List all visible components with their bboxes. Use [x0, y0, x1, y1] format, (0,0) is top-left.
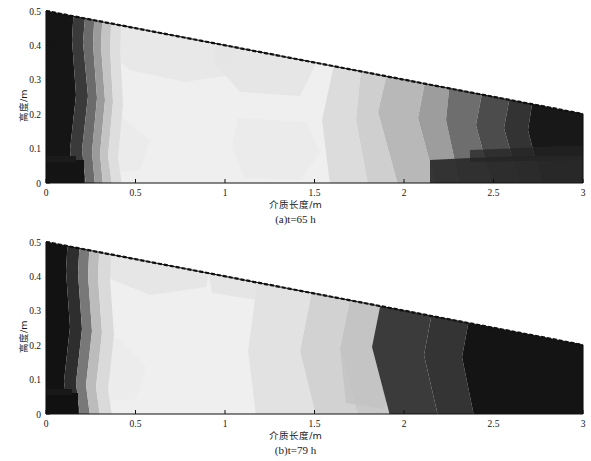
panel-a: 0 0.5 1 1.5 2 2.5 3 0 0.1: [0, 0, 591, 230]
y-axis-label-a: 高度/m: [16, 90, 30, 122]
panel-caption-b: (b)t=79 h: [0, 444, 591, 456]
y-tick-label: 0.4: [29, 41, 41, 51]
y-tick-label: 0.1: [29, 375, 41, 385]
contour-plot-b: 0 0.5 1 1.5 2 2.5 3 0 0.1: [0, 231, 591, 431]
x-axis-label-a: 介质长度/m: [0, 197, 591, 211]
panel-b: 0 0.5 1 1.5 2 2.5 3 0 0.1: [0, 231, 591, 461]
y-tick-label: 0.3: [29, 75, 41, 85]
y-tick-label: 0.2: [29, 341, 41, 351]
x-axis-label-b: 介质长度/m: [0, 428, 591, 442]
contour-field-a: [46, 5, 590, 185]
y-tick-label: 0.4: [29, 272, 41, 282]
y-tick-label: 0: [36, 410, 41, 420]
y-tick-label: 0.2: [29, 110, 41, 120]
plot-area-b: 0 0.5 1 1.5 2 2.5 3 0 0.1: [0, 231, 591, 431]
y-tick-label: 0.5: [29, 238, 41, 248]
y-tick-label: 0.1: [29, 144, 41, 154]
y-axis-label-b: 高度/m: [16, 321, 30, 353]
panel-caption-a: (a)t=65 h: [0, 213, 591, 225]
y-tick-label: 0.5: [29, 7, 41, 17]
y-tick-label: 0.3: [29, 306, 41, 316]
plot-area-a: 0 0.5 1 1.5 2 2.5 3 0 0.1: [0, 0, 591, 200]
y-tick-label: 0: [36, 179, 41, 189]
contour-field-b: [46, 236, 590, 416]
figure-container: 0 0.5 1 1.5 2 2.5 3 0 0.1: [0, 0, 591, 461]
contour-plot-a: 0 0.5 1 1.5 2 2.5 3 0 0.1: [0, 0, 591, 200]
